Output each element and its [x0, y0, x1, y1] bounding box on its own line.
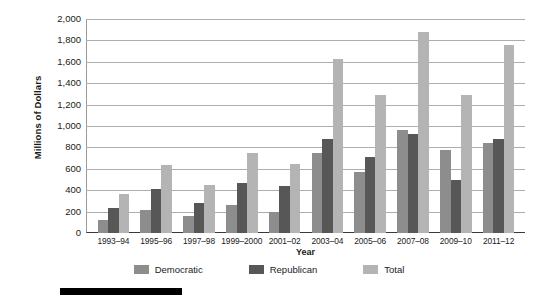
bar-democratic [440, 150, 451, 233]
bar-total [119, 194, 130, 233]
bar-republican [322, 139, 333, 233]
y-tick-label: 1,000 [57, 121, 81, 131]
bar-group [178, 19, 221, 233]
y-tick-label: 0 [76, 228, 81, 238]
y-tick-label: 800 [65, 143, 81, 153]
bar-total [247, 153, 258, 233]
y-tick-label: 1,800 [57, 36, 81, 46]
bar-democratic [226, 205, 237, 233]
bar-group [135, 19, 178, 233]
legend-item-democratic[interactable]: Democratic [134, 264, 203, 275]
bar-republican [451, 180, 462, 234]
bar-democratic [269, 212, 280, 233]
legend-swatch-icon [134, 265, 149, 274]
y-axis-title: Millions of Dollars [32, 28, 43, 208]
x-axis-ticks: 1993–941995–961997–981999–20002001–02200… [86, 236, 525, 246]
y-tick-label: 1,200 [57, 100, 81, 110]
x-tick-label: 1993–94 [92, 236, 135, 246]
legend-label: Total [384, 264, 404, 275]
y-tick-label: 600 [65, 164, 81, 174]
x-tick-label: 1995–96 [135, 236, 178, 246]
bar-total [204, 185, 215, 233]
bar-republican [194, 203, 205, 233]
bar-democratic [397, 130, 408, 233]
y-tick-label: 2,000 [57, 14, 81, 24]
plot-area: 02004006008001,0001,2001,4001,6001,8002,… [86, 19, 525, 233]
y-tick-label: 1,600 [57, 57, 81, 67]
legend-swatch-icon [249, 265, 264, 274]
bar-group [477, 19, 520, 233]
bar-total [375, 95, 386, 233]
bar-republican [408, 134, 419, 234]
x-tick-label: 2009–10 [434, 236, 477, 246]
legend-swatch-icon [363, 265, 378, 274]
y-tick-label: 1,400 [57, 78, 81, 88]
x-tick-label: 2011–12 [477, 236, 520, 246]
bar-group [220, 19, 263, 233]
x-tick-label: 2005–06 [349, 236, 392, 246]
x-tick-label: 1999–2000 [220, 236, 263, 246]
bar-republican [108, 208, 119, 233]
bar-group [92, 19, 135, 233]
bar-democratic [183, 216, 194, 233]
bar-total [461, 95, 472, 233]
bar-group [392, 19, 435, 233]
bar-republican [279, 186, 290, 233]
bar-total [333, 59, 344, 233]
bar-total [290, 164, 301, 233]
bar-total [161, 165, 172, 233]
x-tick-label: 2007–08 [392, 236, 435, 246]
bar-group [306, 19, 349, 233]
bar-group [263, 19, 306, 233]
bar-group [434, 19, 477, 233]
bar-group [349, 19, 392, 233]
x-tick-label: 2001–02 [263, 236, 306, 246]
bar-democratic [312, 153, 323, 233]
bar-total [504, 45, 515, 233]
legend-label: Republican [270, 264, 318, 275]
bar-democratic [98, 220, 109, 233]
legend-label: Democratic [155, 264, 203, 275]
bar-groups [86, 19, 525, 233]
bar-democratic [483, 143, 494, 233]
legend-item-total[interactable]: Total [363, 264, 404, 275]
bar-republican [365, 157, 376, 233]
bottom-rule [60, 288, 182, 295]
chart-legend: DemocraticRepublicanTotal [0, 264, 538, 275]
y-tick-label: 200 [65, 207, 81, 217]
y-tick-label: 400 [65, 185, 81, 195]
bar-total [418, 32, 429, 233]
legend-item-republican[interactable]: Republican [249, 264, 318, 275]
x-tick-label: 1997–98 [178, 236, 221, 246]
bar-democratic [354, 172, 365, 233]
bar-democratic [140, 210, 151, 233]
bar-republican [151, 189, 162, 233]
bar-republican [493, 139, 504, 233]
x-tick-label: 2003–04 [306, 236, 349, 246]
x-axis-title: Year [86, 247, 525, 257]
bar-republican [237, 183, 248, 233]
chart-figure: Millions of Dollars 02004006008001,0001,… [0, 0, 538, 302]
